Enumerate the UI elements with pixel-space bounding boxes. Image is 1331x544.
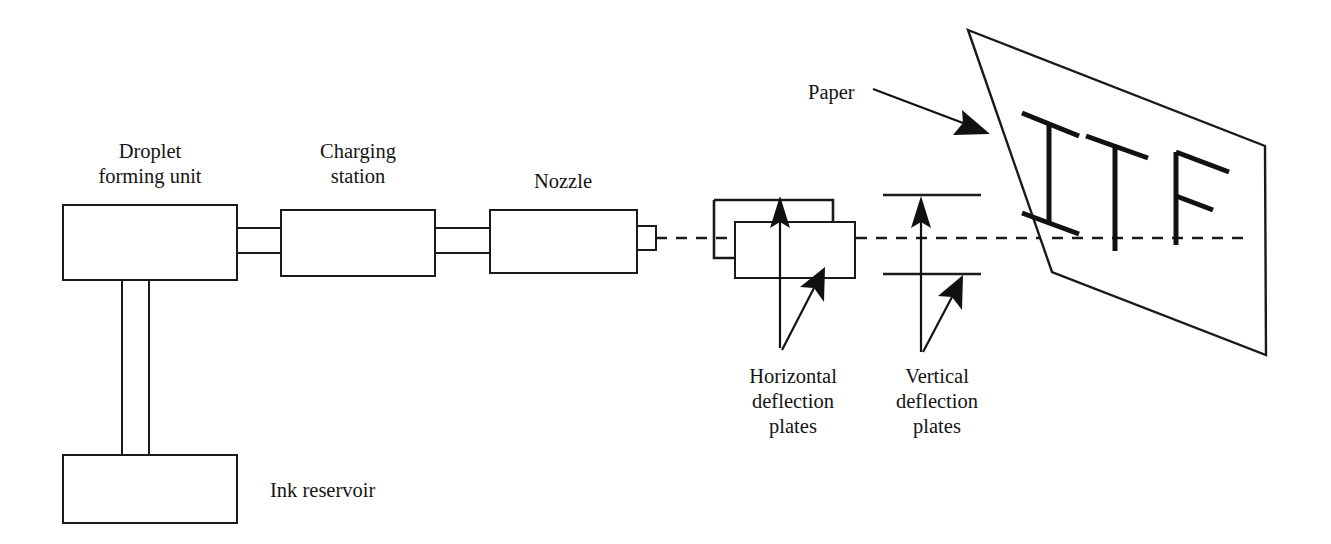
- arrowhead-paper: [953, 110, 990, 135]
- label-nozzle: Nozzle: [534, 170, 592, 192]
- horizontal-plates-callout-arrow-diagonal: [782, 267, 825, 350]
- label-charging-station-line2: station: [331, 165, 386, 187]
- label-vertical-plates-line2: deflection: [896, 390, 978, 412]
- label-horizontal-plates-line3: plates: [769, 415, 817, 438]
- arrowhead-diagonal-vertical-plates: [938, 275, 963, 310]
- label-vertical-plates-line3: plates: [913, 415, 961, 438]
- paper-callout-arrow: [873, 89, 990, 135]
- diagram-canvas: Droplet forming unit Charging station No…: [0, 0, 1331, 544]
- inkjet-printer-diagram: Droplet forming unit Charging station No…: [0, 0, 1331, 544]
- label-droplet-unit-line1: Droplet: [119, 140, 182, 163]
- label-droplet-unit-line2: forming unit: [98, 165, 201, 188]
- vertical-plates-callout-arrow-diagonal: [923, 275, 963, 352]
- label-charging-station-line1: Charging: [320, 140, 396, 163]
- label-horizontal-plates-line1: Horizontal: [749, 365, 837, 387]
- nozzle-tip: [637, 226, 656, 250]
- label-paper: Paper: [808, 81, 855, 104]
- droplet-forming-unit-box: [63, 205, 237, 280]
- ink-reservoir-box: [63, 455, 237, 523]
- label-vertical-plates-line1: Vertical: [905, 365, 969, 387]
- horizontal-deflection-plate-front: [735, 222, 855, 278]
- charging-station-box: [281, 210, 435, 276]
- label-horizontal-plates-line2: deflection: [752, 390, 834, 412]
- label-ink-reservoir: Ink reservoir: [270, 479, 375, 501]
- nozzle-box: [490, 210, 637, 273]
